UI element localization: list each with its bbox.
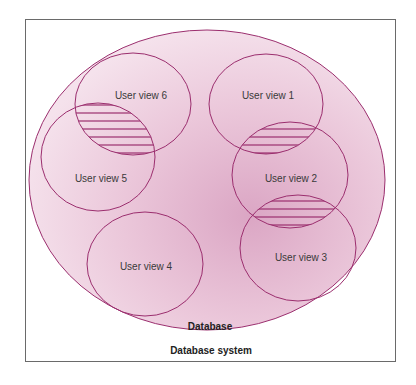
user-view-1-label: User view 1 — [242, 90, 294, 101]
user-view-5-label: User view 5 — [75, 173, 127, 184]
user-view-3-label: User view 3 — [275, 252, 327, 263]
user-view-4-label: User view 4 — [120, 261, 172, 272]
user-view-2-label: User view 2 — [265, 173, 317, 184]
database-system-label: Database system — [170, 345, 252, 356]
database-label: Database — [188, 321, 232, 332]
user-view-6-label: User view 6 — [115, 90, 167, 101]
